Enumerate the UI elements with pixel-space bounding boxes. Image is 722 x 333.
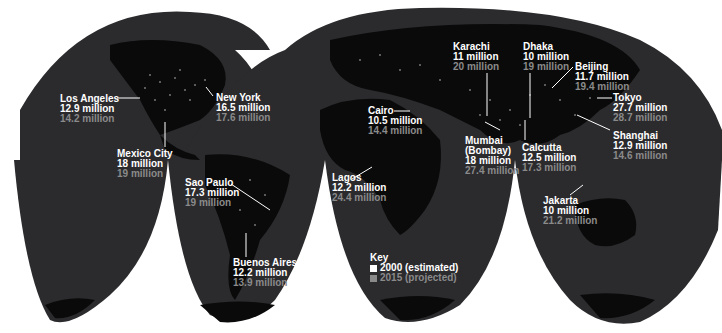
population-2015: 19 million [523, 62, 569, 72]
city-label-karachi: Karachi 11 million 20 million [453, 42, 499, 72]
city-label-shanghai: Shanghai 12.9 million 14.6 million [613, 131, 667, 161]
population-2015: 19 million [185, 198, 239, 208]
population-2015: 20 million [453, 62, 499, 72]
city-label-dhaka: Dhaka 10 million 19 million [523, 42, 569, 72]
population-2015: 17.6 million [216, 113, 270, 123]
population-2015: 14.6 million [613, 151, 667, 161]
city-label-jakarta: Jakarta 10 million 21.2 million [543, 196, 597, 226]
city-label-sao-paulo: Sao Paulo 17.3 million 19 million [185, 178, 239, 208]
land-antarctica-2 [200, 302, 275, 323]
legend-label: 2015 (projected) [380, 273, 457, 283]
population-2015: 28.7 million [613, 113, 667, 123]
map-legend: Key 2000 (estimated) 2015 (projected) [370, 253, 458, 283]
population-2015: 14.4 million [368, 126, 422, 136]
legend-swatch-white [370, 265, 377, 272]
city-label-mumbai: Mumbai (Bombay) 18 million 27.4 million [465, 136, 519, 176]
city-label-cairo: Cairo 10.5 million 14.4 million [368, 106, 422, 136]
population-2015: 19 million [117, 169, 173, 179]
city-label-beijing: Beijing 11.7 million 19.4 million [575, 62, 629, 92]
city-label-los-angeles: Los Angeles 12.9 million 14.2 million [60, 94, 119, 124]
city-label-tokyo: Tokyo 27.7 million 28.7 million [613, 93, 667, 123]
world-map [0, 0, 722, 333]
population-2015: 14.2 million [60, 114, 119, 124]
lobe-south-pacific-west [14, 160, 168, 322]
legend-item-2015: 2015 (projected) [370, 273, 458, 283]
city-label-buenos-aires: Buenos Aires 12.2 million 13.9 million [233, 258, 297, 288]
city-label-calcutta: Calcutta 12.5 million 17.3 million [522, 143, 576, 173]
population-2015: 27.4 million [465, 166, 519, 176]
city-label-lagos: Lagos 12.2 million 24.4 million [332, 173, 386, 203]
population-2015: 19.4 million [575, 82, 629, 92]
city-label-mexico-city: Mexico City 18 million 19 million [117, 149, 173, 179]
population-2015: 21.2 million [543, 216, 597, 226]
population-2015: 13.9 million [233, 278, 297, 288]
population-2015: 17.3 million [522, 163, 576, 173]
city-label-new-york: New York 16.5 million 17.6 million [216, 93, 270, 123]
legend-swatch-gray [370, 275, 377, 282]
population-2015: 24.4 million [332, 193, 386, 203]
